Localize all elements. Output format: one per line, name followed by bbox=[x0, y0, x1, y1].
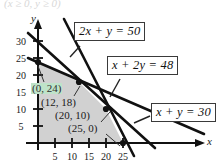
equation-box-x-plus-2y-48: x + 2y = 48 bbox=[107, 56, 178, 75]
x-axis-label: x bbox=[207, 136, 212, 147]
y-tick-label-30: 30 bbox=[12, 37, 30, 47]
vertex-label-0-24: (0, 24) bbox=[31, 83, 62, 94]
equation-box-2x-plus-y-50: 2x + y = 50 bbox=[74, 22, 145, 41]
vertex-dot-3 bbox=[120, 140, 126, 146]
vertex-dot-1 bbox=[76, 79, 82, 85]
x-tick-label-10: 10 bbox=[64, 152, 80, 162]
x-axis-arrow bbox=[195, 139, 205, 147]
y-tick-label-25: 25 bbox=[12, 54, 30, 64]
y-tick-label-10: 10 bbox=[12, 105, 30, 115]
vertex-dot-2 bbox=[103, 106, 109, 112]
x-tick-label-20: 20 bbox=[98, 152, 114, 162]
vertex-label-20-10: (20, 10) bbox=[55, 110, 90, 121]
x-tick-label-15: 15 bbox=[81, 152, 97, 162]
linear-programming-figure: (x ≥ 0, y ≥ 0) bbox=[0, 0, 221, 167]
y-tick-label-5: 5 bbox=[12, 122, 30, 132]
y-axis-label: y bbox=[31, 13, 36, 24]
x-tick-label-5: 5 bbox=[47, 152, 63, 162]
x-tick-label-25: 25 bbox=[115, 152, 131, 162]
vertex-label-25-0: (25, 0) bbox=[68, 123, 97, 134]
vertex-label-12-18: (12, 18) bbox=[41, 97, 76, 108]
y-tick-label-15: 15 bbox=[12, 88, 30, 98]
equation-box-x-plus-y-30: x + y = 30 bbox=[151, 103, 216, 122]
y-tick-label-20: 20 bbox=[12, 71, 30, 81]
vertex-dot-0 bbox=[35, 59, 41, 65]
